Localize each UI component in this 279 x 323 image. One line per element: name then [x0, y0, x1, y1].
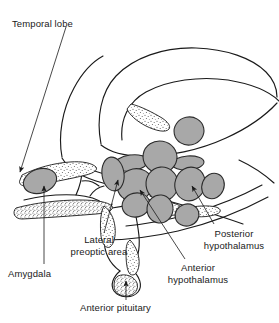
leader-temporal-lobe [20, 27, 66, 172]
label-anterior-hypothalamus-line1: Anterior [152, 262, 244, 274]
label-anterior-pituitary: Anterior pituitary [80, 302, 151, 314]
label-posterior-hypothalamus-line2: hypothalamus [191, 240, 277, 252]
temporal-lobe-upper-arc [61, 56, 104, 157]
label-lateral-preoptic-area-line2: preoptic area [56, 246, 142, 258]
label-lateral-preoptic-area-line1: Lateral [56, 234, 142, 246]
label-anterior-hypothalamus-line2: hypothalamus [152, 274, 244, 286]
basal-stipple-band [14, 200, 112, 219]
fornix-stipple [127, 104, 170, 131]
label-posterior-hypothalamus-line1: Posterior [191, 228, 277, 240]
label-amygdala: Amygdala [8, 268, 51, 280]
lateral-sulcus-branch-2 [90, 186, 104, 196]
anatomical-diagram-figure: Temporal lobe Amygdala Lateral preoptic … [0, 0, 279, 323]
nucleus-dorsal-isolated [171, 114, 206, 148]
right-cortical-margin [239, 160, 274, 183]
label-temporal-lobe: Temporal lobe [12, 18, 73, 30]
